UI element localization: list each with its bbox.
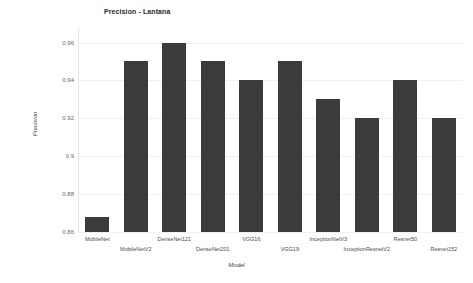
y-tick-label: 0.88 <box>34 191 74 197</box>
y-tick-label: 0.94 <box>34 77 74 83</box>
bar <box>124 61 148 232</box>
gridline <box>78 43 463 44</box>
y-tick-label: 0.86 <box>34 229 74 235</box>
bar <box>316 99 340 232</box>
bar <box>432 118 456 232</box>
y-tick-labels: 0.960.940.920.90.880.86 <box>30 0 74 283</box>
x-tick-label: InceptionResnetV2 <box>344 246 390 252</box>
y-tick-label: 0.92 <box>34 115 74 121</box>
x-tick-label: DenseNet201 <box>196 246 230 252</box>
bar <box>85 217 109 232</box>
gridline <box>78 232 463 233</box>
x-tick-label: DenseNet121 <box>157 236 191 242</box>
x-tick-label: Resnet152 <box>430 246 457 252</box>
bar <box>278 61 302 232</box>
y-tick-label: 0.96 <box>34 40 74 46</box>
x-tick-label: VGG19 <box>281 246 299 252</box>
chart-title: Precision - Lantana <box>104 8 170 15</box>
bar <box>162 43 186 233</box>
bar <box>355 118 379 232</box>
x-tick-label: MobileNetV2 <box>120 246 152 252</box>
x-tick-label: Resnet50 <box>394 236 418 242</box>
bar <box>201 61 225 232</box>
x-tick-label: VGG16 <box>242 236 260 242</box>
x-tick-label: MobileNet <box>85 236 110 242</box>
bar <box>239 80 263 232</box>
chart-figure: Precision - Lantana Precision Model 0.96… <box>0 0 473 283</box>
y-tick-label: 0.9 <box>34 153 74 159</box>
bar <box>393 80 417 232</box>
x-tick-label: InceptionNetV3 <box>309 236 347 242</box>
plot-area <box>78 33 463 232</box>
